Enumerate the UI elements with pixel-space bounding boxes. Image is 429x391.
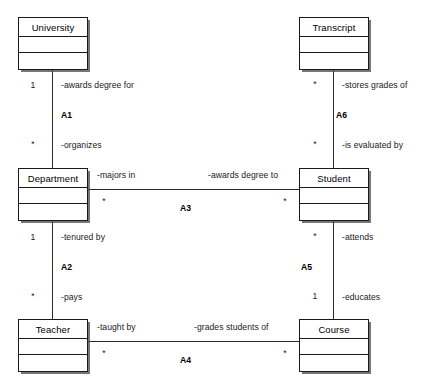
multiplicity-a2-teacher: * — [25, 291, 41, 301]
multiplicity-a2-department: 1 — [25, 232, 41, 242]
association-name-a4: A4 — [180, 355, 191, 365]
class-attributes-compartment — [300, 188, 368, 204]
class-attributes-compartment — [19, 188, 87, 204]
class-operations-compartment — [300, 355, 368, 371]
role-label-a2-pays: -pays — [61, 292, 82, 302]
multiplicity-a3-department: * — [96, 196, 112, 206]
class-box-teacher[interactable]: Teacher — [18, 319, 88, 372]
association-name-a2: A2 — [61, 262, 72, 272]
role-label-a4-taught-by: -taught by — [97, 322, 136, 332]
multiplicity-a5-course: 1 — [307, 291, 323, 301]
multiplicity-a4-teacher: * — [96, 348, 112, 358]
association-line-a6[interactable] — [333, 70, 334, 168]
class-operations-compartment — [300, 204, 368, 220]
association-line-a3[interactable] — [88, 189, 301, 190]
multiplicity-a1-university: 1 — [25, 80, 41, 90]
role-label-a6-is-evaluated-by: -is evaluated by — [342, 140, 403, 150]
class-operations-compartment — [19, 204, 87, 220]
multiplicity-a4-course: * — [277, 348, 293, 358]
class-name-course: Course — [300, 320, 368, 339]
multiplicity-a6-student: * — [307, 139, 323, 149]
association-name-a3: A3 — [180, 203, 191, 213]
association-name-a6: A6 — [336, 110, 347, 120]
role-label-a5-attends: -educates — [342, 292, 380, 302]
role-label-a1-organizes: -organizes — [61, 140, 102, 150]
association-name-a5: A5 — [301, 262, 312, 272]
role-label-a2-tenured-by: -tenured by — [61, 232, 105, 242]
class-box-student[interactable]: Student — [299, 168, 369, 221]
association-line-a5[interactable] — [333, 221, 334, 319]
association-line-a2[interactable] — [52, 221, 53, 319]
class-box-transcript[interactable]: Transcript — [299, 17, 369, 70]
class-attributes-compartment — [300, 37, 368, 53]
class-name-transcript: Transcript — [300, 18, 368, 37]
class-box-department[interactable]: Department — [18, 168, 88, 221]
class-operations-compartment — [19, 53, 87, 69]
class-name-student: Student — [300, 169, 368, 188]
class-attributes-compartment — [19, 37, 87, 53]
role-label-a1-awards-degree-for: -awards degree for — [61, 80, 134, 90]
role-label-a3-awards-degree-to: -awards degree to — [208, 170, 278, 180]
association-line-a4[interactable] — [88, 341, 301, 342]
multiplicity-a3-student: * — [277, 196, 293, 206]
multiplicity-a1-department: * — [25, 139, 41, 149]
class-name-department: Department — [19, 169, 87, 188]
class-box-course[interactable]: Course — [299, 319, 369, 372]
association-name-a1: A1 — [61, 110, 72, 120]
association-line-a1[interactable] — [52, 70, 53, 168]
class-operations-compartment — [19, 355, 87, 371]
class-name-university: University — [19, 18, 87, 37]
multiplicity-a6-transcript: * — [307, 79, 323, 89]
class-name-teacher: Teacher — [19, 320, 87, 339]
class-attributes-compartment — [19, 339, 87, 355]
class-operations-compartment — [300, 53, 368, 69]
class-attributes-compartment — [300, 339, 368, 355]
uml-class-diagram: University Transcript Department Student… — [0, 0, 429, 391]
role-label-a5-educates: -attends — [342, 232, 373, 242]
role-label-a4-grades-students-of: -grades students of — [194, 322, 269, 332]
role-label-a6-stores-grades-of: -stores grades of — [342, 80, 407, 90]
class-box-university[interactable]: University — [18, 17, 88, 70]
multiplicity-a5-student: * — [307, 231, 323, 241]
role-label-a3-majors-in: -majors in — [97, 170, 135, 180]
